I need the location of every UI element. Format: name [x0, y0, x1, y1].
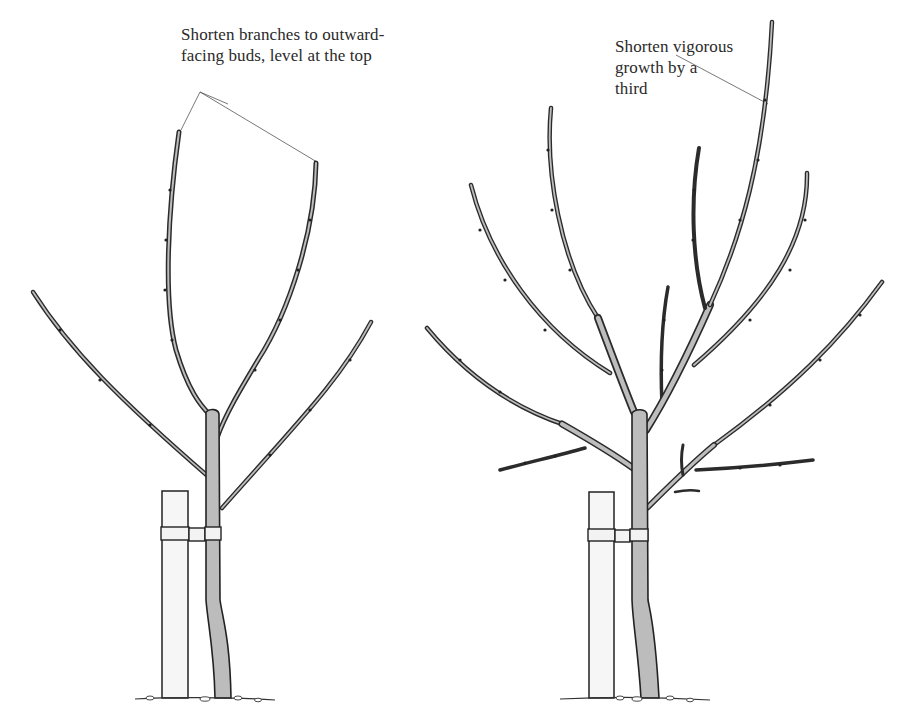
illustration — [0, 0, 916, 720]
right-tree-tie — [588, 529, 648, 542]
right-ground — [560, 696, 710, 702]
left-ground — [135, 696, 275, 702]
right-leader-line — [676, 55, 768, 104]
left-branches — [33, 132, 371, 508]
right-trunk — [632, 410, 659, 698]
right-branches — [427, 22, 882, 508]
right-stake — [589, 492, 614, 698]
left-tree-tie — [161, 527, 221, 541]
left-tree — [33, 92, 371, 702]
left-trunk — [206, 410, 231, 698]
right-tree — [427, 22, 882, 702]
left-leader-lines — [181, 92, 317, 162]
left-stake — [162, 491, 188, 698]
